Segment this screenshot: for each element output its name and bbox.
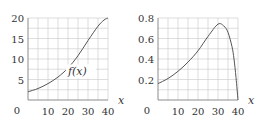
y-tick-label: 15 — [11, 34, 24, 45]
curve-label: f(x) — [67, 65, 87, 78]
x-tick-label: 10 — [172, 106, 185, 117]
x-axis-label: x — [248, 94, 255, 107]
x-tick-label: 30 — [212, 106, 225, 117]
x-tick-label: 40 — [102, 106, 115, 117]
origin-label: 0 — [144, 105, 150, 116]
x-axis-label: x — [118, 94, 125, 107]
y-tick-label: 0.8 — [138, 13, 154, 24]
y-tick-label: 0.6 — [138, 34, 154, 45]
y-tick-label: 10 — [11, 54, 24, 65]
y-tick-label: 0.2 — [138, 75, 154, 86]
x-tick-label: 30 — [82, 106, 95, 117]
y-tick-label: 5 — [18, 75, 24, 86]
x-tick-label: 20 — [62, 106, 75, 117]
derivative-charts: 1020304051015200xf(x)102030400.20.40.60.… — [0, 0, 269, 124]
y-tick-label: 0.4 — [138, 54, 154, 65]
y-tick-label: 20 — [11, 13, 24, 24]
x-tick-label: 20 — [192, 106, 205, 117]
origin-label: 0 — [14, 105, 20, 116]
x-tick-label: 40 — [232, 106, 245, 117]
x-tick-label: 10 — [42, 106, 55, 117]
